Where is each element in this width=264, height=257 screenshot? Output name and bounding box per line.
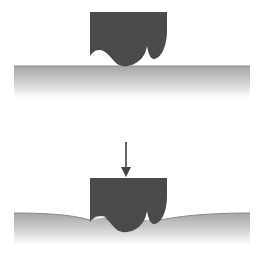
panel-before-load bbox=[14, 12, 250, 98]
flat-surface bbox=[14, 66, 250, 98]
panel-under-load bbox=[14, 142, 250, 245]
contact-diagram bbox=[0, 0, 264, 257]
rough-indenter-block bbox=[90, 12, 167, 66]
force-arrow-icon bbox=[121, 142, 131, 177]
